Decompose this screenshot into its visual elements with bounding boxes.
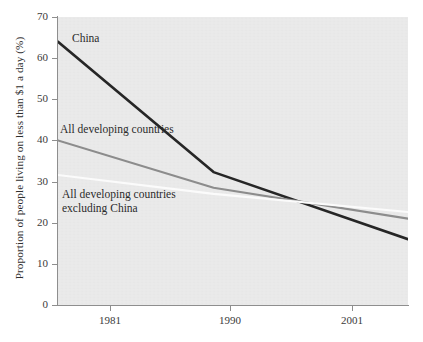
x-tick-mark bbox=[352, 305, 353, 311]
x-tick-mark bbox=[110, 305, 111, 311]
y-tick-label: 60 bbox=[14, 52, 48, 63]
y-tick-label: 50 bbox=[14, 93, 48, 104]
y-tick-label: 70 bbox=[14, 11, 48, 22]
y-tick-label: 30 bbox=[14, 176, 48, 187]
x-tick-label: 1990 bbox=[200, 315, 260, 326]
series-annotation-china: China bbox=[72, 32, 99, 46]
y-tick-mark bbox=[52, 305, 58, 306]
series-annotation-excluding-china: All developing countries excluding China bbox=[62, 188, 176, 215]
x-tick-mark bbox=[230, 305, 231, 311]
y-tick-label: 20 bbox=[14, 217, 48, 228]
x-tick-label: 2001 bbox=[322, 315, 382, 326]
chart-figure: Proportion of people living on less than… bbox=[0, 0, 423, 342]
series-annotation-all-developing-countries: All developing countries bbox=[60, 123, 174, 137]
y-tick-label: 10 bbox=[14, 258, 48, 269]
y-tick-label: 40 bbox=[14, 134, 48, 145]
caption-fragment bbox=[13, 336, 213, 342]
y-tick-label: 0 bbox=[14, 299, 48, 310]
series-lines bbox=[58, 17, 408, 305]
x-tick-label: 1981 bbox=[80, 315, 140, 326]
